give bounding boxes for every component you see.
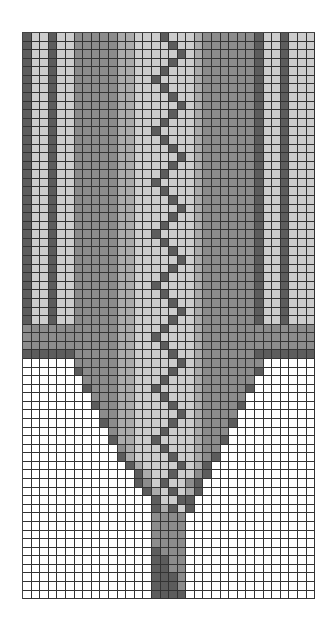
grid-cell — [186, 33, 195, 42]
grid-cell — [289, 162, 298, 171]
grid-cell — [186, 213, 195, 222]
grid-cell — [238, 488, 247, 497]
grid-cell — [135, 50, 144, 59]
grid-cell — [100, 84, 109, 93]
grid-cell — [152, 325, 161, 334]
grid-cell — [40, 333, 49, 342]
grid-cell — [178, 582, 187, 591]
grid-cell — [40, 308, 49, 317]
grid-cell — [289, 359, 298, 368]
grid-cell — [126, 565, 135, 574]
grid-cell — [289, 205, 298, 214]
grid-cell — [186, 187, 195, 196]
grid-cell — [178, 479, 187, 488]
grid-cell — [109, 573, 118, 582]
grid-cell — [40, 316, 49, 325]
grid-cell — [229, 548, 238, 557]
grid-cell — [289, 368, 298, 377]
grid-cell — [118, 110, 127, 119]
grid-cell — [212, 333, 221, 342]
grid-cell — [281, 539, 290, 548]
grid-cell — [298, 196, 307, 205]
grid-cell — [272, 119, 281, 128]
grid-cell — [40, 213, 49, 222]
grid-cell — [23, 230, 32, 239]
grid-cell — [161, 350, 170, 359]
grid-cell — [92, 196, 101, 205]
grid-cell — [178, 299, 187, 308]
grid-cell — [66, 522, 75, 531]
grid-cell — [203, 170, 212, 179]
grid-cell — [135, 522, 144, 531]
grid-cell — [307, 582, 316, 591]
grid-cell — [40, 282, 49, 291]
grid-cell — [221, 127, 230, 136]
grid-cell — [109, 145, 118, 154]
grid-cell — [238, 196, 247, 205]
grid-cell — [109, 127, 118, 136]
grid-cell — [40, 67, 49, 76]
grid-cell — [135, 453, 144, 462]
grid-cell — [186, 205, 195, 214]
grid-cell — [186, 256, 195, 265]
grid-cell — [178, 205, 187, 214]
grid-cell — [100, 93, 109, 102]
grid-cell — [118, 376, 127, 385]
grid-cell — [57, 273, 66, 282]
grid-cell — [169, 42, 178, 51]
grid-cell — [135, 145, 144, 154]
grid-cell — [23, 591, 32, 600]
grid-cell — [178, 282, 187, 291]
grid-cell — [255, 522, 264, 531]
grid-cell — [264, 350, 273, 359]
grid-cell — [161, 59, 170, 68]
grid-cell — [203, 582, 212, 591]
grid-cell — [143, 162, 152, 171]
grid-cell — [66, 110, 75, 119]
grid-cell — [203, 33, 212, 42]
grid-cell — [161, 548, 170, 557]
grid-cell — [229, 265, 238, 274]
grid-cell — [178, 247, 187, 256]
grid-cell — [272, 59, 281, 68]
grid-cell — [169, 299, 178, 308]
grid-cell — [221, 196, 230, 205]
grid-cell — [246, 462, 255, 471]
grid-cell — [272, 153, 281, 162]
grid-cell — [75, 539, 84, 548]
grid-cell — [281, 393, 290, 402]
grid-cell — [161, 531, 170, 540]
grid-cell — [298, 153, 307, 162]
grid-cell — [229, 428, 238, 437]
grid-cell — [195, 162, 204, 171]
grid-cell — [118, 222, 127, 231]
grid-cell — [307, 573, 316, 582]
grid-cell — [152, 308, 161, 317]
grid-cell — [32, 187, 41, 196]
grid-cell — [169, 265, 178, 274]
grid-cell — [186, 402, 195, 411]
grid-cell — [298, 179, 307, 188]
grid-cell — [49, 213, 58, 222]
grid-cell — [40, 462, 49, 471]
grid-cell — [83, 385, 92, 394]
grid-cell — [23, 385, 32, 394]
grid-cell — [221, 265, 230, 274]
grid-cell — [203, 359, 212, 368]
grid-cell — [186, 453, 195, 462]
grid-cell — [83, 556, 92, 565]
grid-cell — [186, 548, 195, 557]
grid-cell — [143, 33, 152, 42]
grid-cell — [57, 76, 66, 85]
grid-cell — [272, 239, 281, 248]
grid-cell — [126, 127, 135, 136]
grid-cell — [49, 145, 58, 154]
grid-cell — [229, 565, 238, 574]
grid-cell — [212, 436, 221, 445]
grid-cell — [229, 282, 238, 291]
grid-cell — [66, 84, 75, 93]
grid-cell — [66, 376, 75, 385]
grid-cell — [143, 273, 152, 282]
grid-cell — [195, 187, 204, 196]
grid-cell — [238, 505, 247, 514]
